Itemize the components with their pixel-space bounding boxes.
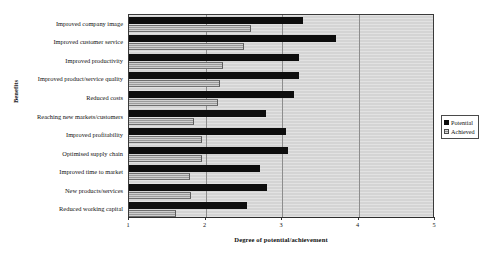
bar-potential [129,202,247,209]
bar-achieved [129,80,220,87]
bar-achieved [129,25,251,32]
category-label: Improved company image [15,20,123,27]
bar-potential [129,54,299,61]
bar-potential [129,128,286,135]
category-label: Improved customer service [15,38,123,45]
legend-item: Potential [444,118,475,127]
x-axis-tick [358,217,359,220]
bar-potential [129,110,266,117]
bar-potential [129,17,303,24]
legend-item-label: Achieved [451,128,475,135]
bar-achieved [129,136,202,143]
black-square-icon [444,120,449,125]
bar-achieved [129,62,223,69]
category-label: Optimised supply chain [15,150,123,157]
gridline [282,15,283,217]
bar-achieved [129,192,191,199]
x-axis-tick-label: 4 [348,221,368,228]
category-label: Reduced costs [15,94,123,101]
category-label: Improved profitability [15,131,123,138]
bar-potential [129,184,267,191]
x-axis-tick-label: 3 [271,221,291,228]
x-axis-title: Degree of potential/achievement [128,236,434,243]
gridline [359,15,360,217]
legend-item: Achieved [444,127,475,136]
x-axis-tick [281,217,282,220]
bar-potential [129,165,260,172]
bar-potential [129,147,288,154]
x-axis-tick [434,217,435,220]
x-axis-tick-label: 2 [195,221,215,228]
category-label: Reaching new markets/customers [15,113,123,120]
bar-achieved [129,99,218,106]
x-axis-tick-label: 1 [118,221,138,228]
x-axis-tick [128,217,129,220]
category-label: New products/services [15,187,123,194]
plot-area [128,14,434,218]
bar-potential [129,91,294,98]
category-label: Reduced working capital [15,205,123,212]
bar-achieved [129,118,194,125]
bar-achieved [129,155,202,162]
category-label-list: Improved company imageImproved customer … [16,14,126,218]
category-label: Improved product/service quality [15,75,123,82]
bar-chart: Benefits Improved company imageImproved … [0,0,498,259]
legend-item-label: Potential [451,119,473,126]
x-axis-tick-label: 5 [424,221,444,228]
bar-achieved [129,173,190,180]
hatched-square-icon [444,129,449,134]
x-axis-tick [205,217,206,220]
bar-achieved [129,43,244,50]
bar-potential [129,35,336,42]
bar-potential [129,72,299,79]
category-label: Improved time to market [15,168,123,175]
category-label: Improved productivity [15,57,123,64]
legend: PotentialAchieved [441,115,479,139]
